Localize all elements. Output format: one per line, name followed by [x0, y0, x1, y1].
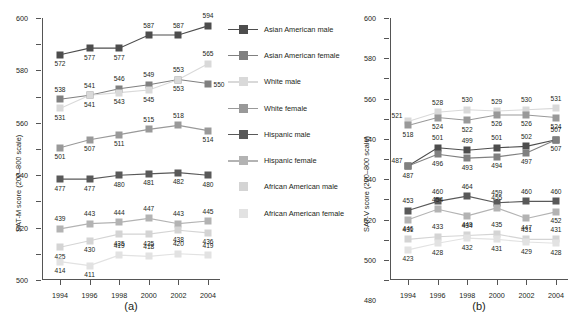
series-line: [408, 140, 556, 166]
y-axis-tick: 540: [36, 97, 41, 98]
data-point-label: 531: [550, 95, 561, 102]
y-axis-tick: 480: [36, 175, 41, 176]
data-point-label: 529: [491, 98, 502, 105]
data-point-marker: [116, 172, 123, 179]
data-point-marker: [175, 32, 182, 39]
series-line: [60, 80, 208, 100]
chart-legend: Asian American maleAsian American female…: [228, 16, 370, 226]
data-point-label: 460: [550, 188, 561, 195]
data-point-marker: [57, 225, 64, 232]
data-point-label: 482: [173, 178, 184, 185]
data-point-label: 531: [54, 114, 65, 121]
data-point-marker: [145, 87, 152, 94]
data-point-label: 431: [521, 226, 532, 233]
legend-label: Hispanic female: [264, 156, 317, 165]
data-point-marker: [145, 215, 152, 222]
data-point-marker: [493, 111, 500, 118]
data-point-label: 518: [402, 131, 413, 138]
legend-marker: [239, 25, 248, 34]
x-axis-tick-label: 2004: [548, 291, 564, 300]
y-axis-tick: 580: [384, 38, 389, 39]
data-point-marker: [175, 76, 182, 83]
legend-swatch: [228, 156, 258, 165]
data-point-marker: [175, 169, 182, 176]
data-point-label: 545: [143, 96, 154, 103]
data-point-marker: [405, 246, 412, 253]
data-point-label: 434: [462, 222, 473, 229]
y-axis-tick: 540: [384, 99, 389, 100]
data-point-marker: [205, 127, 212, 134]
data-point-label: 477: [54, 185, 65, 192]
data-point-marker: [553, 114, 560, 121]
panel-caption-b: (b): [472, 300, 485, 312]
data-point-marker: [464, 147, 471, 154]
x-axis-tick-label: 1996: [430, 291, 446, 300]
y-axis-tick: 420: [384, 240, 389, 241]
legend-label: African American female: [264, 209, 344, 218]
data-point-marker: [553, 240, 560, 247]
data-point-label: 501: [491, 134, 502, 141]
y-axis-tick-label: 540: [16, 171, 28, 180]
x-axis-tick: 2004: [208, 280, 209, 285]
legend-item: Asian American female: [228, 42, 370, 68]
legend-marker: [239, 104, 248, 113]
data-point-label: 499: [462, 137, 473, 144]
y-axis-tick: 520: [384, 119, 389, 120]
data-point-label: 487: [402, 172, 413, 179]
data-point-label: 511: [114, 140, 125, 147]
y-axis-tick: 560: [384, 58, 389, 59]
y-axis-label-a: SAT-M score (200–800 scale): [14, 135, 23, 232]
legend-swatch: [228, 51, 258, 60]
data-point-label: 411: [84, 271, 95, 278]
data-point-label: 541: [84, 82, 95, 89]
legend-item: Hispanic male: [228, 121, 370, 147]
data-point-label: 487: [391, 157, 402, 164]
legend-swatch: [228, 182, 258, 191]
data-point-marker: [57, 51, 64, 58]
data-point-label: 546: [114, 75, 125, 82]
legend-label: White female: [264, 104, 307, 113]
data-point-marker: [493, 204, 500, 211]
y-axis-tick-label: 520: [16, 223, 28, 232]
data-point-marker: [523, 149, 530, 156]
data-point-label: 538: [54, 86, 65, 93]
legend-item: Hispanic female: [228, 147, 370, 173]
data-point-label: 439: [54, 215, 65, 222]
legend-swatch: [228, 77, 258, 86]
data-point-marker: [434, 206, 441, 213]
x-axis-tick: 1994: [408, 280, 409, 285]
data-point-label: 514: [202, 136, 213, 143]
data-point-label: 420: [173, 240, 184, 247]
y-axis-tick: 400: [384, 280, 389, 281]
data-point-marker: [523, 239, 530, 246]
data-point-marker: [523, 111, 530, 118]
data-point-marker: [464, 235, 471, 242]
series-line: [408, 115, 556, 125]
series-lines-b: [390, 18, 568, 280]
legend-marker: [239, 209, 248, 218]
data-point-marker: [175, 250, 182, 257]
data-point-marker: [205, 22, 212, 29]
legend-marker: [239, 182, 248, 191]
data-point-marker: [493, 153, 500, 160]
data-point-label: 414: [54, 267, 65, 274]
x-axis-tick-label: 2000: [141, 291, 157, 300]
data-point-marker: [434, 151, 441, 158]
data-point-label: 464: [462, 183, 473, 190]
data-point-label: 454: [432, 196, 443, 203]
data-point-marker: [523, 215, 530, 222]
data-point-marker: [86, 92, 93, 99]
x-axis-tick-label: 1994: [52, 291, 68, 300]
y-axis-tick: 420: [384, 260, 389, 261]
x-axis-tick-label: 2002: [518, 291, 534, 300]
data-point-label: 577: [114, 54, 125, 61]
data-point-label: 526: [491, 120, 502, 127]
data-point-marker: [116, 131, 123, 138]
data-point-label: 565: [202, 50, 213, 57]
data-point-label: 549: [143, 71, 154, 78]
data-point-marker: [405, 216, 412, 223]
data-point-marker: [553, 208, 560, 215]
legend-label: African American male: [264, 182, 338, 191]
series-line: [60, 254, 208, 266]
legend-label: Asian American female: [264, 51, 340, 60]
